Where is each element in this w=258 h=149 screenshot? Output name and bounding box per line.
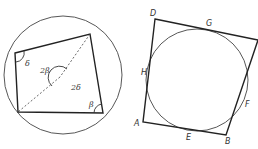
cyclic-quadrilateral-figure: δ β 2β 2δ xyxy=(4,16,122,134)
label-vertex-D: D xyxy=(150,9,156,18)
tangential-quadrilateral xyxy=(143,19,258,135)
label-tangent-E: E xyxy=(186,133,192,142)
label-delta: δ xyxy=(25,59,30,68)
label-tangent-F: F xyxy=(245,100,250,109)
label-vertex-A: A xyxy=(133,119,139,128)
diagram-canvas: δ β 2β 2δ D G H F A E B xyxy=(0,0,258,149)
label-two-delta: 2δ xyxy=(70,83,81,92)
angle-arc-beta xyxy=(94,104,102,113)
label-tangent-H: H xyxy=(141,68,147,77)
central-angle-arc xyxy=(48,66,67,86)
radius-dashed-2 xyxy=(18,77,60,112)
circumscribed-circle xyxy=(4,16,122,134)
label-two-beta: 2β xyxy=(39,66,50,75)
label-vertex-B: B xyxy=(225,137,231,146)
label-tangent-G: G xyxy=(206,19,212,28)
tangential-quadrilateral-figure: D G H F A E B xyxy=(133,9,258,146)
label-beta: β xyxy=(88,100,94,109)
